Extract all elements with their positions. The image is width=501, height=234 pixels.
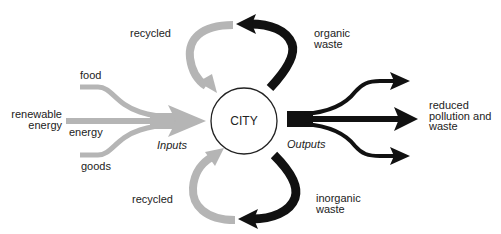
bottom-recycle-loop [193,148,296,229]
organic-waste-arrow [250,24,293,88]
renewable-energy-line2: energy [10,120,62,131]
output-top-arrow [305,81,396,114]
reduced-pollution-line3: waste [429,121,491,132]
output-flows [287,72,418,165]
inorganic-waste-line1: inorganic [316,193,361,204]
goods-label: goods [81,161,111,172]
renewable-energy-line1: renewable [10,109,62,120]
recycled-top-label: recycled [130,28,171,39]
food-label: food [80,70,101,81]
renewable-energy-label: renewable energy [10,109,62,130]
top-recycle-loop [190,14,293,93]
inorganic-waste-arrow [252,155,296,219]
recycled-bottom-label: recycled [132,194,173,205]
reduced-pollution-label: reduced pollution and waste [429,100,491,132]
recycled-bottom-arrow [193,157,235,220]
inputs-label: Inputs [157,140,187,151]
outputs-label: Outputs [287,139,326,150]
reduced-pollution-line1: reduced [429,100,491,111]
organic-waste-label: organic waste [314,28,350,49]
inorganic-waste-line2: waste [316,204,361,215]
organic-waste-line2: waste [314,39,350,50]
city-label: CITY [224,114,264,128]
inorganic-waste-label: inorganic waste [316,193,361,214]
organic-waste-line1: organic [314,28,350,39]
energy-label: energy [69,127,103,138]
